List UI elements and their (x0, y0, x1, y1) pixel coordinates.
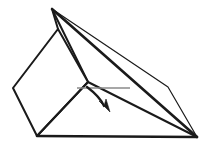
geometric-solid-drawing (0, 0, 212, 148)
base-edge (37, 136, 197, 137)
figure-container (0, 0, 212, 148)
